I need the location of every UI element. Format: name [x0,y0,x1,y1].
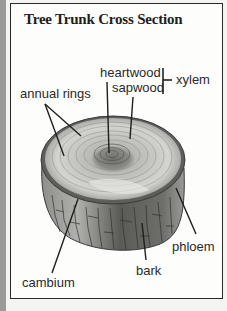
label-heartwood: heartwood [100,66,161,79]
xylem-bracket [163,68,172,94]
label-sapwood: sapwood [112,81,164,94]
label-bark: bark [136,264,161,277]
label-cambium: cambium [22,276,75,289]
tree-stump-illustration [0,0,227,311]
cross-section-top [41,116,185,204]
label-annual-rings: annual rings [20,87,91,100]
label-phloem: phloem [172,240,215,253]
label-xylem: xylem [176,73,210,86]
